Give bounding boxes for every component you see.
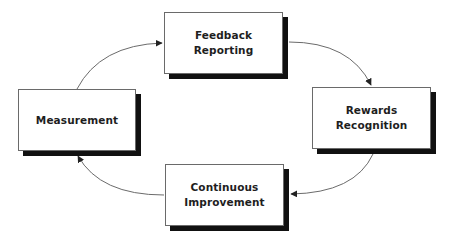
node-rewards-recognition: Rewards Recognition — [312, 87, 431, 149]
arrow-rewards-to-continuous — [291, 154, 373, 194]
arrow-feedback-to-rewards — [289, 42, 371, 85]
node-label: Rewards Recognition — [336, 103, 408, 133]
cycle-diagram: Feedback Reporting Rewards Recognition C… — [0, 0, 451, 242]
arrow-measurement-to-feedback — [77, 43, 162, 89]
node-measurement: Measurement — [18, 89, 136, 151]
node-continuous-improvement: Continuous Improvement — [165, 164, 284, 226]
node-feedback-reporting: Feedback Reporting — [164, 12, 283, 74]
node-label: Measurement — [36, 113, 118, 128]
arrow-continuous-to-measurement — [78, 156, 164, 195]
node-label: Continuous Improvement — [184, 180, 264, 210]
node-label: Feedback Reporting — [194, 28, 254, 58]
